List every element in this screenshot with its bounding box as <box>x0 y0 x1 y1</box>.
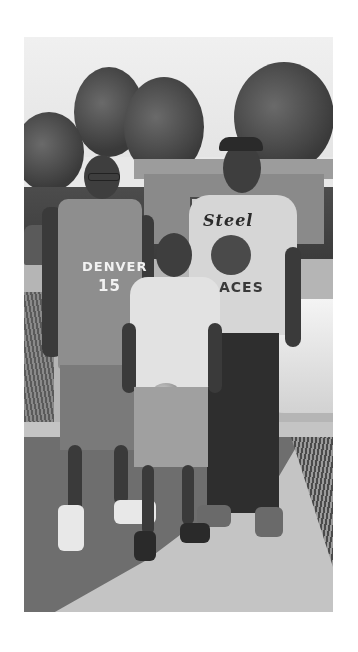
jersey-number: 15 <box>98 277 121 295</box>
right-man-arm <box>285 247 301 347</box>
shirt-text-top: Steel <box>203 211 253 230</box>
child-head <box>156 233 192 277</box>
photograph: DENVER 15 Steel ACES <box>24 37 333 612</box>
left-man-shoe <box>58 505 84 551</box>
child-shoe <box>180 523 210 543</box>
child-leg <box>182 465 194 525</box>
center-child <box>122 233 232 573</box>
child-shoe <box>134 531 156 561</box>
cap-icon <box>219 137 263 151</box>
child-arm <box>208 323 222 393</box>
glasses-icon <box>88 173 120 181</box>
child-arm <box>122 323 136 393</box>
right-man-shoe <box>255 507 283 537</box>
child-shorts <box>134 387 208 467</box>
child-leg <box>142 465 154 535</box>
child-shirt <box>130 277 220 387</box>
